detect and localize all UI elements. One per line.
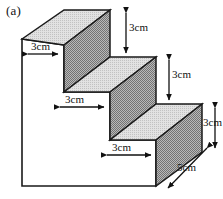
dim-label-riser-middle: 3cm xyxy=(172,68,191,80)
dim-label-tread-middle: 3cm xyxy=(65,93,84,105)
figure-label: (a) xyxy=(6,3,21,19)
dim-label-depth: 5cm xyxy=(177,161,196,173)
solid-body xyxy=(22,10,202,186)
dim-label-riser-top: 3cm xyxy=(129,21,148,33)
dim-label-tread-top: 3cm xyxy=(31,40,50,52)
dim-label-riser-bottom: 3cm xyxy=(203,116,222,128)
dim-label-tread-bottom: 3cm xyxy=(112,141,131,153)
